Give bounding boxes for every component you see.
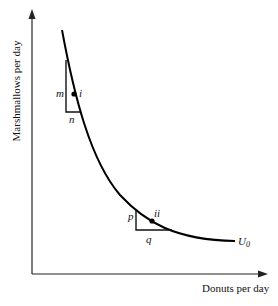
curve-label-text: U xyxy=(238,235,246,247)
indifference-curve-diagram xyxy=(0,0,278,306)
label-ii: ii xyxy=(154,208,160,219)
label-i: i xyxy=(79,88,82,99)
label-p: p xyxy=(128,211,134,222)
label-q: q xyxy=(146,234,152,245)
curve-label-subscript: 0 xyxy=(246,240,250,249)
point-i xyxy=(71,91,76,96)
x-axis-arrow-icon xyxy=(258,271,268,278)
curve-label-u0: U0 xyxy=(238,236,250,249)
x-axis-label: Donuts per day xyxy=(202,282,269,294)
y-axis-label: Marshmallows per day xyxy=(10,29,22,153)
label-n: n xyxy=(69,114,75,125)
indifference-curve-u0 xyxy=(62,30,235,241)
point-ii xyxy=(149,218,154,223)
y-axis-arrow-icon xyxy=(29,9,36,19)
label-m: m xyxy=(56,88,64,99)
